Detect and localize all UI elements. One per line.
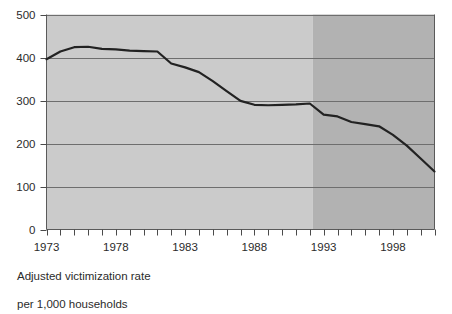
caption-line-1: Adjusted victimization rate: [17, 269, 151, 283]
y-tick-label-0: 0: [29, 224, 35, 236]
x-tick-label-1998: 1998: [380, 241, 406, 253]
background-band-dark-band: [313, 15, 435, 230]
y-tick-label-300: 300: [16, 95, 35, 107]
y-tick-label-400: 400: [16, 52, 35, 64]
y-tick-label-100: 100: [16, 181, 35, 193]
caption-line-2: per 1,000 households: [17, 297, 151, 311]
x-tick-label-1993: 1993: [311, 241, 337, 253]
y-tick-label-500: 500: [16, 9, 35, 21]
chart-caption: Adjusted victimization rate per 1,000 ho…: [17, 255, 151, 314]
x-tick-label-1973: 1973: [34, 241, 60, 253]
y-axis-ticks: [41, 16, 47, 231]
x-tick-label-1988: 1988: [242, 241, 268, 253]
y-tick-label-200: 200: [16, 138, 35, 150]
shaded-background-bands: [47, 15, 435, 230]
x-axis-tick-labels: 197319781983198819931998: [34, 241, 406, 253]
x-axis-ticks: [48, 230, 436, 236]
x-tick-label-1978: 1978: [103, 241, 129, 253]
y-axis-tick-labels: 0100200300400500: [16, 9, 35, 236]
x-tick-label-1983: 1983: [172, 241, 198, 253]
